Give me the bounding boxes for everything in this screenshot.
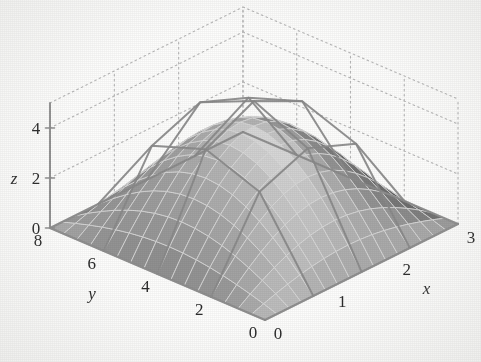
y-axis-label: y — [86, 284, 96, 303]
z-axis-label: z — [10, 169, 18, 188]
y-tick-label-6: 6 — [88, 254, 97, 273]
z-tick-label-4: 4 — [32, 119, 41, 138]
x-axis-label: x — [422, 279, 431, 298]
x-tick-label-2: 2 — [402, 260, 411, 279]
surface-layer — [50, 116, 458, 320]
y-tick-label-2: 2 — [195, 300, 204, 319]
z-tick-label-2: 2 — [32, 169, 41, 188]
surface-plot-figure: 024z86420y0123x — [0, 0, 481, 362]
plot-canvas: 024z86420y0123x — [0, 0, 481, 362]
x-tick-label-3: 3 — [467, 228, 476, 247]
y-tick-label-8: 8 — [34, 231, 43, 250]
y-tick-label-4: 4 — [141, 277, 150, 296]
y-tick-label-0: 0 — [249, 323, 258, 342]
x-tick-label-1: 1 — [338, 292, 347, 311]
x-tick-label-0: 0 — [274, 324, 283, 343]
